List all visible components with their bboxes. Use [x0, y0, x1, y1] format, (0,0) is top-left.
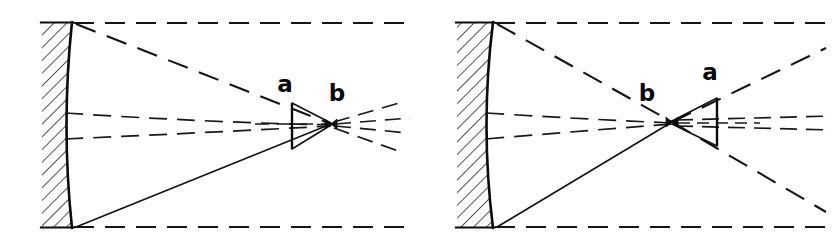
inner-ray-lower-right [486, 124, 672, 139]
label-a-left: a [277, 71, 293, 97]
inner-ray-upper-right [486, 113, 672, 123]
figure-canvas: a b [0, 0, 839, 247]
right-diagram: b a [456, 22, 832, 228]
left-diagram: a b [41, 22, 410, 228]
focus-point-b-right [666, 117, 678, 127]
reflected-ray-upper-right [497, 24, 672, 122]
label-a-right: a [702, 59, 718, 85]
ray-diagram-svg: a b [0, 0, 839, 247]
outgoing-ray-lower-right [676, 126, 832, 130]
reflected-ray-lower-right [497, 122, 672, 227]
cone-edge-upper-right [672, 98, 717, 121]
outgoing-ray-upper-right [676, 116, 832, 120]
label-b-left: b [329, 80, 345, 106]
label-b-right: b [639, 80, 655, 106]
crossed-ray-upper-right [672, 48, 826, 122]
mirror-backing-hatch-right [456, 22, 494, 228]
